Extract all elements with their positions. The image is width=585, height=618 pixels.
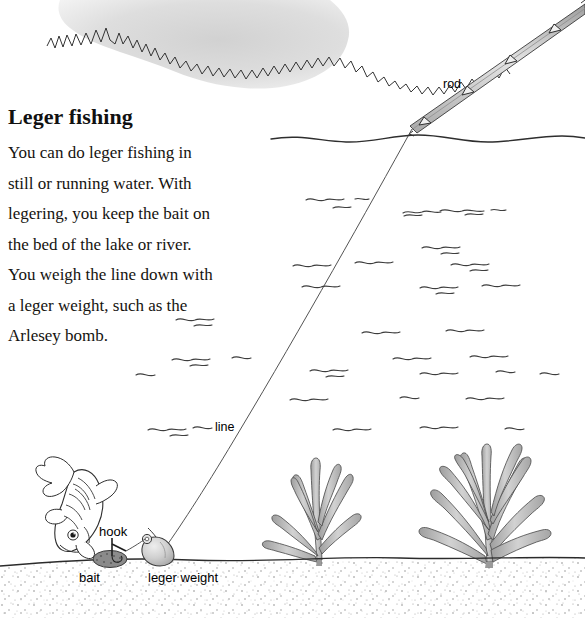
label-hook: hook: [99, 525, 127, 538]
label-rod: rod: [443, 78, 461, 91]
fish: [36, 457, 118, 559]
weed-large: [419, 444, 551, 568]
weed-small: [262, 458, 361, 566]
label-line: line: [215, 421, 234, 434]
illustration-page: Leger fishing You can do leger fishing i…: [0, 0, 585, 618]
label-bait: bait: [79, 571, 100, 584]
fishing-rod: [409, 0, 585, 136]
lakebed: [0, 556, 585, 618]
page-title: Leger fishing: [8, 104, 260, 130]
label-leger-weight: leger weight: [148, 571, 218, 584]
article-text-block: Leger fishing You can do leger fishing i…: [8, 104, 260, 352]
article-body: You can do leger fishing in still or run…: [8, 138, 260, 352]
cloud: [47, 0, 510, 95]
water-surface: [271, 135, 585, 142]
